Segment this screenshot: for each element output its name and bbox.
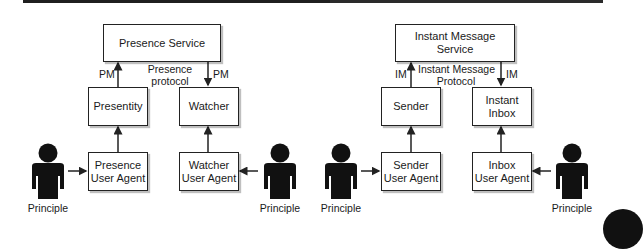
principal-label: Principle	[311, 202, 371, 214]
inbox-user-agent-box: Inbox User Agent	[472, 152, 532, 191]
principal-label: Principle	[250, 202, 310, 214]
instant-message-protocol-label: Instant Message Protocol	[418, 63, 494, 87]
principal-label: Principle	[542, 202, 602, 214]
person-icon	[261, 143, 299, 199]
pm-left-label: PM	[99, 68, 115, 80]
principal-label: Principle	[18, 202, 78, 214]
corner-shape	[603, 209, 643, 249]
instant-message-service-box: Instant Message Service	[395, 24, 515, 62]
sender-user-agent-box: Sender User Agent	[381, 152, 441, 191]
person-icon	[29, 143, 67, 199]
person-icon	[322, 143, 360, 199]
im-left-label: IM	[395, 68, 407, 80]
watcher-user-agent-box: Watcher User Agent	[179, 152, 239, 191]
presence-user-agent-box: Presence User Agent	[88, 152, 148, 191]
top-rule-right	[330, 0, 603, 3]
im-right-label: IM	[506, 68, 518, 80]
instant-inbox-box: Instant Inbox	[472, 87, 532, 126]
presence-protocol-label: Presence protocol	[140, 63, 200, 87]
sender-box: Sender	[381, 87, 441, 126]
watcher-box: Watcher	[179, 87, 239, 126]
presentity-box: Presentity	[88, 87, 148, 126]
presence-service-box: Presence Service	[103, 24, 221, 62]
person-icon	[553, 143, 591, 199]
pm-right-label: PM	[213, 68, 229, 80]
presence-service-label: Presence Service	[119, 37, 205, 50]
